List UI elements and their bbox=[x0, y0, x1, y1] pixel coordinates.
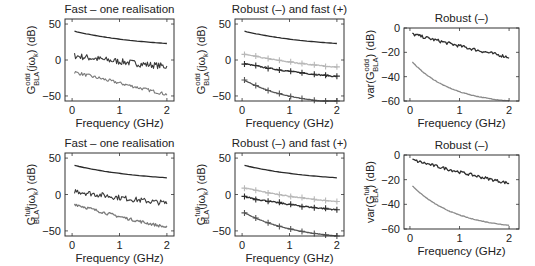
subplot-title: Fast – one realisation bbox=[65, 3, 175, 15]
series-line bbox=[75, 72, 167, 96]
plus-marker-icon bbox=[323, 205, 329, 211]
x-tick-label: 0 bbox=[407, 232, 413, 244]
y-tick-label: −60 bbox=[381, 223, 400, 235]
y-axis-label: GfullBLA(jωk) (dB) bbox=[23, 164, 41, 225]
plus-marker-icon bbox=[276, 191, 282, 197]
y-tick-label: −20 bbox=[381, 174, 400, 186]
x-axis-label: Frequency (GHz) bbox=[245, 117, 333, 129]
x-tick-label: 1 bbox=[116, 104, 122, 116]
plus-marker-icon bbox=[323, 72, 329, 78]
y-axis-label: var(GfullBLA) (dB) bbox=[362, 161, 380, 223]
plus-marker-icon bbox=[288, 94, 294, 100]
subplot-title: Robust (–) bbox=[435, 12, 489, 24]
plus-marker-icon bbox=[311, 62, 317, 68]
y-tick-label: 50 bbox=[49, 152, 61, 164]
plus-marker-icon bbox=[253, 215, 259, 221]
series-line bbox=[412, 186, 509, 225]
plus-marker-icon bbox=[299, 204, 305, 210]
plus-marker-icon bbox=[265, 66, 271, 72]
subplot-title: Robust (–) and fast (+) bbox=[232, 3, 348, 15]
plus-marker-icon bbox=[299, 70, 305, 76]
x-tick-label: 0 bbox=[407, 104, 413, 116]
plus-marker-icon bbox=[299, 60, 305, 66]
subplot-title: Robust (–) bbox=[435, 139, 489, 151]
plus-marker-icon bbox=[253, 62, 259, 68]
plus-marker-icon bbox=[323, 197, 329, 203]
y-tick-label: −50 bbox=[42, 225, 61, 237]
subplot-title: Fast – one realisation bbox=[65, 137, 175, 149]
plus-marker-icon bbox=[241, 51, 247, 57]
plus-marker-icon bbox=[311, 196, 317, 202]
y-tick-label: −50 bbox=[212, 90, 231, 102]
plus-marker-icon bbox=[311, 205, 317, 211]
plus-marker-icon bbox=[311, 97, 317, 103]
x-tick-label: 2 bbox=[334, 104, 340, 116]
x-tick-label: 2 bbox=[506, 232, 512, 244]
x-tick-label: 0 bbox=[69, 239, 75, 251]
x-axis-label: Frequency (GHz) bbox=[417, 245, 505, 257]
plus-marker-icon bbox=[334, 207, 340, 213]
x-tick-label: 1 bbox=[456, 104, 462, 116]
y-tick-label: 50 bbox=[49, 18, 61, 30]
y-axis-label: var(GoddBLA) (dB) bbox=[362, 30, 380, 99]
y-tick-label: −20 bbox=[381, 46, 400, 58]
plus-marker-icon bbox=[241, 77, 247, 83]
y-tick-label: 0 bbox=[55, 189, 61, 201]
y-axis-label: GoddBLA(jωk) (dB) bbox=[193, 26, 211, 95]
axes-box bbox=[235, 19, 344, 101]
plus-marker-icon bbox=[276, 199, 282, 205]
x-axis-label: Frequency (GHz) bbox=[245, 252, 333, 264]
y-axis-label: GoddBLA(jωk) (dB) bbox=[23, 26, 41, 95]
y-tick-label: 0 bbox=[225, 54, 231, 66]
x-tick-label: 2 bbox=[334, 239, 340, 251]
x-tick-label: 0 bbox=[239, 239, 245, 251]
x-tick-label: 2 bbox=[164, 104, 170, 116]
plus-marker-icon bbox=[265, 87, 271, 93]
series-line bbox=[412, 33, 509, 58]
plus-marker-icon bbox=[323, 232, 329, 238]
series-line bbox=[75, 31, 167, 43]
y-tick-label: −60 bbox=[381, 95, 400, 107]
plus-marker-icon bbox=[288, 226, 294, 232]
plus-marker-icon bbox=[334, 199, 340, 205]
subplot-p6: 0120−20−40−60Robust (–)Frequency (GHz)va… bbox=[362, 139, 519, 257]
x-tick-label: 1 bbox=[116, 239, 122, 251]
series-line bbox=[75, 165, 167, 177]
plus-marker-icon bbox=[288, 194, 294, 200]
plus-marker-icon bbox=[334, 64, 340, 70]
y-tick-label: 0 bbox=[55, 54, 61, 66]
plus-marker-icon bbox=[276, 57, 282, 63]
x-tick-label: 0 bbox=[69, 104, 75, 116]
x-tick-label: 2 bbox=[506, 104, 512, 116]
x-tick-label: 1 bbox=[286, 239, 292, 251]
plus-marker-icon bbox=[241, 210, 247, 216]
plus-marker-icon bbox=[241, 193, 247, 199]
plus-marker-icon bbox=[241, 185, 247, 191]
plus-marker-icon bbox=[288, 59, 294, 65]
plus-marker-icon bbox=[253, 83, 259, 89]
y-tick-label: −40 bbox=[381, 71, 400, 83]
y-axis-label: GfullBLA(jωk) (dB) bbox=[193, 164, 211, 225]
y-tick-label: −40 bbox=[381, 198, 400, 210]
y-tick-label: 50 bbox=[219, 152, 231, 164]
y-tick-label: −50 bbox=[212, 225, 231, 237]
plus-marker-icon bbox=[265, 190, 271, 196]
x-axis-label: Frequency (GHz) bbox=[75, 252, 163, 264]
axes-box bbox=[65, 153, 174, 236]
plus-marker-icon bbox=[253, 187, 259, 193]
plus-marker-icon bbox=[253, 197, 259, 203]
plus-marker-icon bbox=[299, 228, 305, 234]
axes-box bbox=[65, 19, 174, 101]
y-tick-label: 0 bbox=[225, 189, 231, 201]
axes-box bbox=[404, 28, 519, 101]
axes-box bbox=[235, 153, 344, 236]
series-line bbox=[245, 165, 337, 177]
x-tick-label: 2 bbox=[164, 239, 170, 251]
y-tick-label: 0 bbox=[394, 22, 400, 34]
series-line bbox=[412, 62, 509, 101]
plus-marker-icon bbox=[265, 220, 271, 226]
plus-marker-icon bbox=[334, 73, 340, 79]
plus-marker-icon bbox=[265, 198, 271, 204]
subplot-p3: 0120−20−40−60Robust (–)Frequency (GHz)va… bbox=[362, 12, 519, 129]
series-line bbox=[75, 204, 167, 227]
